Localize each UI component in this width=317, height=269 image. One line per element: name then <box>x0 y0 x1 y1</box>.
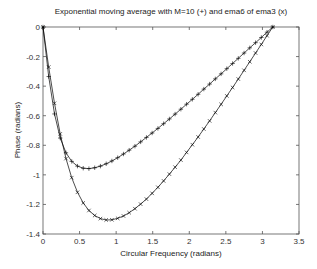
x-tick-label: 0.5 <box>74 237 86 246</box>
y-tick-label: -1.4 <box>26 230 40 239</box>
y-tick-label: -1.2 <box>26 200 40 209</box>
y-tick-label: -1 <box>33 171 41 180</box>
x-tick-label: 0 <box>41 237 46 246</box>
phase-chart: Exponential moving average with M=10 (+)… <box>0 0 317 269</box>
x-tick-label: 1.5 <box>147 237 159 246</box>
x-tick-label: 3.5 <box>293 237 305 246</box>
x-tick-label: 3 <box>260 237 265 246</box>
y-tick-label: -0.8 <box>26 141 40 150</box>
plot-area <box>43 27 299 234</box>
x-axis-label: Circular Frequency (radians) <box>120 249 222 258</box>
y-tick-label: -0.4 <box>26 82 40 91</box>
y-tick-label: 0 <box>36 23 41 32</box>
x-tick-label: 1 <box>114 237 119 246</box>
x-tick-label: 2 <box>187 237 192 246</box>
chart-title: Exponential moving average with M=10 (+)… <box>55 7 288 16</box>
y-axis-label: Phase (radians) <box>13 101 22 158</box>
x-tick-label: 2.5 <box>220 237 232 246</box>
y-tick-label: -0.6 <box>26 112 40 121</box>
y-tick-label: -0.2 <box>26 53 40 62</box>
